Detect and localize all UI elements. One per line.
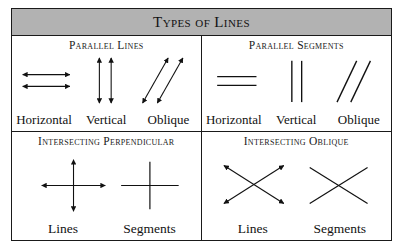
diagram-intersecting-oblique xyxy=(202,149,392,218)
label-segments: Segments xyxy=(296,221,383,237)
line-oblique-2 xyxy=(157,58,183,103)
label-lines: Lines xyxy=(209,221,296,237)
diagram-intersecting-perpendicular xyxy=(12,149,201,218)
cell-intersecting-perpendicular: Intersecting Perpendicular xyxy=(12,132,202,240)
label-segments: Segments xyxy=(106,221,193,237)
label-vertical: Vertical xyxy=(265,112,328,128)
diagram-parallel-lines xyxy=(12,53,201,109)
types-of-lines-figure: Types of Lines Parallel Lines xyxy=(11,8,392,241)
cell-title-parallel-lines: Parallel Lines xyxy=(12,39,201,51)
cell-title-parallel-segments: Parallel Segments xyxy=(202,39,392,51)
label-vertical: Vertical xyxy=(75,112,137,128)
label-oblique: Oblique xyxy=(328,112,391,128)
cell-title-intersecting-oblique: Intersecting Oblique xyxy=(202,135,392,147)
cell-intersecting-oblique: Intersecting Oblique xyxy=(202,132,392,240)
label-lines: Lines xyxy=(20,221,107,237)
cell-parallel-lines: Parallel Lines xyxy=(12,36,202,132)
cell-title-intersecting-perpendicular: Intersecting Perpendicular xyxy=(12,135,201,147)
line-oblique-1 xyxy=(143,58,169,103)
figure-grid: Parallel Lines xyxy=(12,36,391,240)
figure-header: Types of Lines xyxy=(12,9,391,36)
labels-intersecting-perpendicular: Lines Segments xyxy=(12,221,201,237)
label-horizontal: Horizontal xyxy=(13,112,75,128)
label-horizontal: Horizontal xyxy=(202,112,265,128)
cell-parallel-segments: Parallel Segments xyxy=(202,36,392,132)
diagram-parallel-segments xyxy=(202,53,392,109)
figure-page: Types of Lines Parallel Lines xyxy=(0,0,404,250)
labels-parallel-lines: Horizontal Vertical Oblique xyxy=(12,112,201,128)
labels-intersecting-oblique: Lines Segments xyxy=(202,221,392,237)
label-oblique: Oblique xyxy=(137,112,199,128)
page-title: Types of Lines xyxy=(153,14,250,31)
labels-parallel-segments: Horizontal Vertical Oblique xyxy=(202,112,392,128)
